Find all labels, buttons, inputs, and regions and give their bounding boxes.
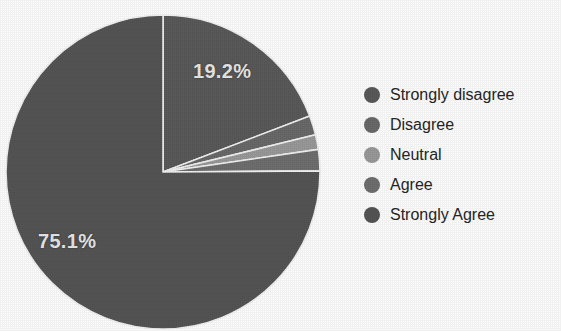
pie-chart-plot-area [0, 0, 340, 331]
legend-swatch-icon [364, 207, 380, 223]
slice-label-strongly-agree: 75.1% [38, 230, 96, 253]
legend-item-neutral[interactable]: Neutral [364, 140, 554, 170]
legend-item-disagree[interactable]: Disagree [364, 110, 554, 140]
legend-item-label: Disagree [390, 117, 454, 133]
pie-chart-svg [0, 0, 340, 331]
legend-swatch-icon [364, 87, 380, 103]
legend-swatch-icon [364, 117, 380, 133]
pie-slices-group [6, 15, 320, 329]
legend-item-label: Strongly disagree [390, 87, 515, 103]
pie-chart-figure: 19.2% 75.1% Strongly disagreeDisagreeNeu… [0, 0, 561, 331]
legend-item-label: Agree [390, 177, 433, 193]
slice-label-strongly-disagree: 19.2% [193, 60, 251, 83]
legend-item-label: Strongly Agree [390, 207, 495, 223]
legend-item-label: Neutral [390, 147, 442, 163]
chart-legend: Strongly disagreeDisagreeNeutralAgreeStr… [364, 80, 554, 230]
legend-swatch-icon [364, 147, 380, 163]
legend-item-agree[interactable]: Agree [364, 170, 554, 200]
legend-item-strongly-disagree[interactable]: Strongly disagree [364, 80, 554, 110]
legend-item-strongly-agree[interactable]: Strongly Agree [364, 200, 554, 230]
legend-swatch-icon [364, 177, 380, 193]
